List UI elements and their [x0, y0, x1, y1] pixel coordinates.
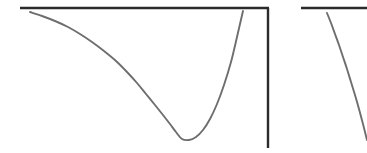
figure-container [0, 0, 367, 153]
plot-background [0, 0, 367, 153]
plot-canvas [0, 0, 367, 153]
